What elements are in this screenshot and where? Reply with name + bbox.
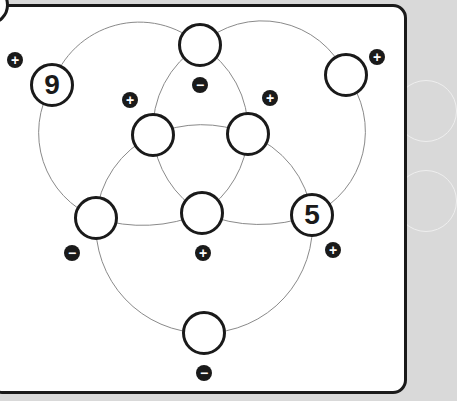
number-circle-top-right[interactable] bbox=[324, 53, 368, 97]
plus-icon: + bbox=[262, 90, 278, 106]
number-circle-top-center[interactable] bbox=[178, 23, 222, 67]
arc-bottom-left bbox=[96, 218, 204, 333]
plus-icon: + bbox=[325, 242, 341, 258]
number-circle-inner-upper-right[interactable] bbox=[226, 112, 270, 156]
number-circle-bottom[interactable] bbox=[182, 311, 226, 355]
number-circle-lower-left[interactable] bbox=[74, 196, 118, 240]
minus-icon: − bbox=[192, 77, 208, 93]
minus-icon: − bbox=[64, 245, 80, 261]
arc-upper-left-circle bbox=[52, 22, 200, 85]
number-circle-inner-upper-left[interactable] bbox=[131, 113, 175, 157]
minus-icon: − bbox=[196, 365, 212, 381]
number-circle-top-left[interactable]: 9 bbox=[30, 63, 74, 107]
plus-icon: + bbox=[195, 245, 211, 261]
plus-icon: + bbox=[7, 52, 23, 68]
arc-upper-right-circle bbox=[200, 21, 346, 75]
plus-icon: + bbox=[369, 49, 385, 65]
number-circle-lower-center[interactable] bbox=[180, 191, 224, 235]
plus-icon: + bbox=[122, 92, 138, 108]
arc-bottom-right bbox=[204, 215, 312, 333]
number-circle-lower-right[interactable]: 5 bbox=[290, 193, 334, 237]
